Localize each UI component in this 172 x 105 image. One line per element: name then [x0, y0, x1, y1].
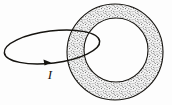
current-label: I	[47, 67, 53, 82]
figure-canvas: I	[0, 0, 172, 105]
toroid-shape	[0, 0, 172, 105]
physics-diagram: I	[0, 0, 172, 105]
